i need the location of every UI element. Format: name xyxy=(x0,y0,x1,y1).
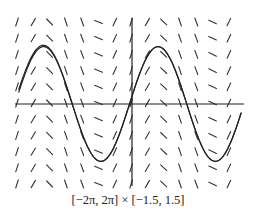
slope-segment xyxy=(16,131,19,139)
slope-segment xyxy=(195,50,198,58)
slope-segment xyxy=(47,19,53,25)
slope-segment xyxy=(95,134,103,137)
slope-segment xyxy=(227,180,231,188)
slope-segment xyxy=(195,99,198,107)
slope-segment xyxy=(81,148,84,156)
slope-segment xyxy=(113,180,117,188)
slope-segment xyxy=(16,99,19,107)
slope-segment xyxy=(31,132,35,139)
slope-segment xyxy=(81,67,84,75)
slope-segment xyxy=(113,115,117,123)
slope-segment xyxy=(16,83,19,91)
slope-segment xyxy=(65,115,68,123)
slope-segment xyxy=(161,181,167,187)
slope-segment xyxy=(16,148,19,156)
slope-segment xyxy=(209,36,217,40)
slope-segment xyxy=(31,83,35,90)
slope-segment xyxy=(145,83,149,90)
slope-segment xyxy=(161,35,167,41)
slope-segment xyxy=(95,85,103,88)
slope-segment xyxy=(31,164,35,171)
slope-segment xyxy=(47,149,53,155)
slope-segment xyxy=(113,51,117,59)
slope-segment xyxy=(161,133,167,139)
slope-segment xyxy=(195,180,198,188)
slope-segment xyxy=(81,180,84,188)
slope-segment xyxy=(65,18,68,26)
slope-segment xyxy=(65,34,68,42)
slope-segment xyxy=(179,115,182,123)
slope-segment xyxy=(179,131,182,139)
window-caption: [−2π, 2π] × [−1.5, 1.5] xyxy=(0,190,256,210)
slope-segment xyxy=(227,164,231,172)
slope-segment xyxy=(113,99,117,107)
slope-segment xyxy=(145,180,149,187)
slope-segment xyxy=(179,18,182,26)
slope-segment xyxy=(65,131,68,139)
slope-segment xyxy=(145,132,149,139)
slope-segment xyxy=(195,67,198,75)
slope-segment xyxy=(113,132,117,140)
slope-segment xyxy=(113,34,117,42)
slope-segment xyxy=(47,116,53,122)
slope-segment xyxy=(227,132,231,140)
slope-segment xyxy=(47,100,53,106)
slope-segment xyxy=(47,68,53,74)
slope-segment xyxy=(16,50,19,58)
slope-segment xyxy=(209,85,217,89)
slope-segment xyxy=(161,68,167,74)
slope-segment xyxy=(227,67,231,75)
slope-segment xyxy=(161,149,167,155)
slope-segment xyxy=(65,180,68,188)
slope-segment xyxy=(65,67,68,75)
slope-segment xyxy=(113,164,117,172)
slope-segment xyxy=(65,50,68,58)
slope-segment xyxy=(31,180,35,187)
slope-segment xyxy=(81,115,84,123)
slope-segment xyxy=(161,165,167,171)
slope-segment xyxy=(31,148,35,155)
slope-segment xyxy=(209,69,217,73)
slope-segment xyxy=(145,99,149,106)
slope-segment xyxy=(145,148,149,155)
slope-segment xyxy=(227,18,231,26)
slope-segment xyxy=(31,67,35,74)
slope-segment xyxy=(179,148,182,156)
slope-segment xyxy=(95,118,103,121)
solution-curves xyxy=(19,45,242,161)
solution-curve xyxy=(19,45,242,161)
slope-segment xyxy=(161,100,167,106)
slope-segment xyxy=(179,164,182,172)
slope-segment xyxy=(179,99,182,107)
slope-segment xyxy=(195,164,198,172)
slope-segment xyxy=(65,99,68,107)
slope-segment xyxy=(47,84,53,90)
slope-field-plot xyxy=(0,0,256,190)
slope-segment xyxy=(209,53,217,57)
slope-segment xyxy=(16,67,19,75)
slope-segment xyxy=(195,148,198,156)
slope-segment xyxy=(95,37,103,40)
slope-segment xyxy=(65,164,68,172)
slope-segment xyxy=(81,99,84,107)
slope-segment xyxy=(16,164,19,172)
slope-segment xyxy=(179,50,182,58)
slope-segment xyxy=(47,181,53,187)
slope-segment xyxy=(195,34,198,42)
slope-segment xyxy=(209,134,217,138)
slope-segment xyxy=(65,148,68,156)
slope-segment xyxy=(227,34,231,42)
slope-segment xyxy=(31,116,35,123)
slope-segment xyxy=(161,84,167,90)
slope-segment xyxy=(145,35,149,42)
slope-segment xyxy=(195,115,198,123)
slope-segment xyxy=(179,67,182,75)
slope-segment xyxy=(227,51,231,59)
slope-segment xyxy=(95,166,103,169)
slope-segment xyxy=(209,166,217,170)
slope-segment xyxy=(145,18,149,25)
slope-segment xyxy=(16,18,19,26)
slope-segment xyxy=(145,116,149,123)
slope-segment xyxy=(81,34,84,42)
slope-segment xyxy=(95,20,103,23)
